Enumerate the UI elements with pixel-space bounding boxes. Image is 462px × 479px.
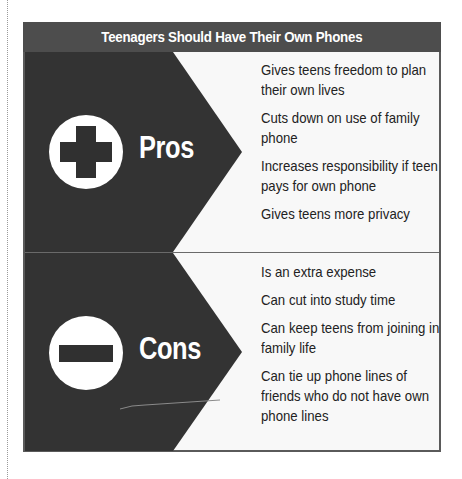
pros-list: Gives teens freedom to plan their own li… [261, 60, 441, 232]
title-bar: Teenagers Should Have Their Own Phones [23, 22, 441, 52]
pros-item: Gives teens freedom to plan their own li… [261, 60, 441, 100]
scan-artifact-line [120, 395, 220, 415]
cons-label: Cons [139, 331, 201, 367]
pros-panel: Pros Gives teens freedom to plan their o… [25, 52, 439, 252]
chart-title: Teenagers Should Have Their Own Phones [101, 28, 362, 46]
page-margin-rule [7, 0, 8, 479]
plus-icon [49, 115, 123, 189]
cons-panel: Cons Is an extra expense Can cut into st… [25, 253, 439, 453]
pros-label: Pros [139, 130, 194, 166]
cons-list: Is an extra expense Can cut into study t… [261, 262, 441, 434]
cons-item: Is an extra expense [261, 262, 441, 282]
pros-item: Gives teens more privacy [261, 204, 441, 224]
cons-item: Can cut into study time [261, 290, 441, 310]
pros-item: Increases responsibility if teen pays fo… [261, 156, 441, 196]
minus-icon [49, 316, 123, 390]
cons-item: Can keep teens from joining in family li… [261, 318, 441, 358]
cons-item: Can tie up phone lines of friends who do… [261, 366, 441, 426]
pros-item: Cuts down on use of family phone [261, 108, 441, 148]
